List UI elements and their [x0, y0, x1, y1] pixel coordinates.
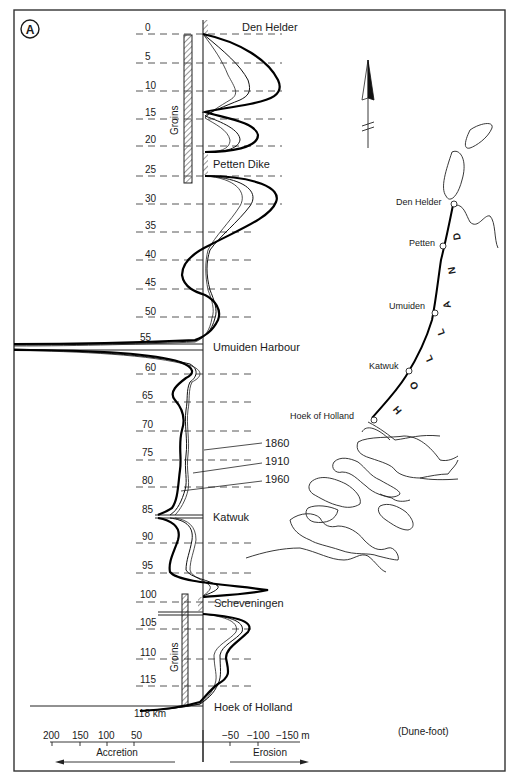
coastal-profile-figure: A 0 5 10 15 20 25 30 35 40 45	[0, 0, 514, 782]
label-petten-dike: Petten Dike	[213, 158, 270, 170]
erosion-label: Erosion	[253, 747, 287, 758]
profile-1860	[14, 34, 242, 711]
island-texel	[444, 151, 465, 199]
km-tick: 15	[145, 107, 157, 118]
km-tick: 95	[142, 560, 154, 571]
den-helder-dike-hatch	[203, 20, 208, 34]
label-scheveningen: Scheveningen	[214, 597, 284, 609]
km-tick: 115	[140, 674, 156, 685]
map-marker-petten	[440, 243, 446, 249]
erosion-tick: −150 m	[276, 730, 310, 741]
km-tick: 10	[145, 80, 157, 91]
groins-bar-north	[184, 35, 192, 183]
erosion-arrow-icon	[230, 760, 309, 765]
dune-foot-note: (Dune-foot)	[398, 726, 449, 737]
legend-1960: 1960	[265, 473, 289, 485]
groins-label-north: Groins	[169, 106, 180, 135]
region-letter: N	[446, 266, 458, 275]
km-tick: 45	[145, 277, 157, 288]
petten-dike-hatch	[203, 153, 208, 175]
accretion-arrow-icon	[55, 760, 175, 765]
label-umuiden-harbour: Umuiden Harbour	[213, 341, 300, 353]
accretion-tick: 200	[43, 730, 60, 741]
map-marker-umuiden	[432, 310, 438, 316]
label-katwuk: Katwuk	[213, 511, 250, 523]
accretion-label: Accretion	[96, 747, 138, 758]
x-axis-scale: 200 150 100 50 −50 −100 −150 m Accretion…	[43, 730, 310, 765]
region-letter: L	[434, 327, 446, 337]
groins-bar-south	[182, 594, 188, 706]
region-letter: L	[423, 353, 436, 363]
km-tick: 70	[142, 419, 154, 430]
map-marker-katwuk	[406, 368, 412, 374]
panel-label: A	[26, 23, 35, 37]
profile-1910	[14, 34, 253, 711]
region-letter: D	[451, 232, 463, 241]
label-den-helder: Den Helder	[242, 21, 298, 33]
legend-leaders	[181, 443, 262, 491]
erosion-tick: −50	[222, 730, 239, 741]
km-tick: 85	[142, 504, 154, 515]
km-tick: 100	[140, 589, 157, 600]
island-texel-north	[465, 124, 492, 149]
km-tick: 105	[140, 617, 157, 628]
legend-1860: 1860	[265, 437, 289, 449]
km-tick: 65	[142, 390, 154, 401]
map-region-label: D N A L L O H	[391, 232, 463, 416]
map-marker-hoek-of-holland	[371, 417, 377, 423]
km-tick: 75	[142, 447, 154, 458]
km-tick-labels: 0 5 10 15 20 25 30 35 40 45 50 55 60 65 …	[134, 22, 166, 719]
km-tick: 50	[145, 306, 157, 317]
scheveningen-hatch	[198, 597, 203, 611]
km-tick: 25	[145, 164, 157, 175]
accretion-tick: 50	[131, 730, 143, 741]
legend-1910: 1910	[265, 455, 289, 467]
legend: 1860 1910 1960	[265, 437, 289, 485]
map-label-umuiden: Umuiden	[389, 301, 425, 311]
km-tick: 0	[145, 22, 151, 33]
map-marker-den-helder	[451, 201, 457, 207]
map-label-hoek-of-holland: Hoek of Holland	[290, 411, 354, 421]
km-tick: 35	[145, 220, 157, 231]
accretion-tick: 150	[72, 730, 89, 741]
region-letter: H	[391, 404, 404, 417]
groins-label-south: Groins	[169, 643, 180, 672]
map-label-petten: Petten	[409, 238, 435, 248]
map-label-katwuk: Katwuk	[369, 361, 399, 371]
km-tick: 20	[145, 134, 157, 145]
map-label-den-helder: Den Helder	[396, 197, 442, 207]
region-letter: A	[440, 300, 452, 310]
km-tick: 5	[145, 51, 151, 62]
km-tick: 30	[145, 193, 157, 204]
accretion-tick: 100	[98, 730, 115, 741]
km-tick: 90	[142, 531, 154, 542]
north-arrow-icon	[362, 60, 374, 148]
km-tick: 80	[142, 475, 154, 486]
erosion-tick: −100	[247, 730, 270, 741]
km-tick: 40	[145, 249, 157, 260]
region-letter: O	[407, 379, 421, 391]
panel-label-badge: A	[21, 20, 39, 38]
km-tick: 110	[140, 647, 156, 658]
label-hoek-of-holland: Hoek of Holland	[214, 701, 292, 713]
km-tick: 60	[145, 362, 157, 373]
ijsselmeer-shore	[456, 205, 498, 248]
figure-frame	[14, 10, 505, 771]
